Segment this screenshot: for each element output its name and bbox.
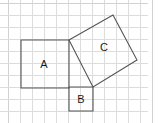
figure-canvas: A B C (0, 0, 159, 123)
geometry-diagram: A B C (0, 0, 159, 123)
square-a-label: A (40, 58, 48, 70)
square-c-label: C (100, 41, 108, 53)
background-grid (0, 0, 153, 123)
square-b-label: B (77, 93, 84, 105)
